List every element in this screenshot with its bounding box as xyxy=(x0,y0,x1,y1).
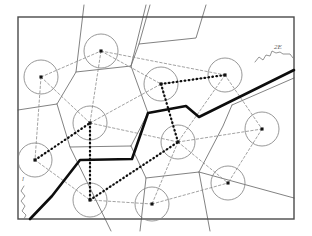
figure-root: 2El xyxy=(0,0,312,236)
dot-node-upper-center xyxy=(159,82,162,85)
dot-node-lower-right xyxy=(226,181,229,184)
dot-node-upper-left xyxy=(39,75,42,78)
dot-node-top xyxy=(99,49,102,52)
annotation-bottom-left-text: l xyxy=(22,175,24,183)
dot-node-center xyxy=(176,140,179,143)
voronoi-delaunay-figure: 2El xyxy=(0,0,312,236)
dot-node-mid-left xyxy=(88,121,91,124)
dot-node-bottom-center xyxy=(150,202,153,205)
annotation-top-right-text: 2E xyxy=(274,43,283,51)
dot-node-left-lower xyxy=(33,158,36,161)
dot-node-upper-right xyxy=(223,73,226,76)
dot-node-bottom-left xyxy=(88,198,91,201)
dot-node-far-right xyxy=(260,127,263,130)
